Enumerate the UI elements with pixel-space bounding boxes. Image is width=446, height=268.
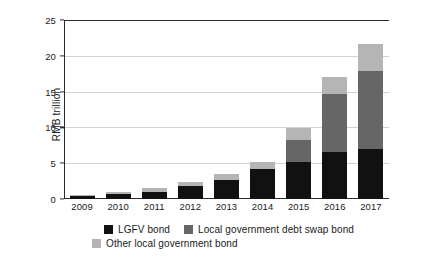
bar-stack-2014[interactable]: [250, 162, 275, 199]
bar-stack-2011[interactable]: [142, 188, 167, 199]
x-tick-label-2009: 2009: [64, 201, 100, 217]
bar-stack-2012[interactable]: [178, 182, 203, 199]
chart-legend: LGFV bond Local government debt swap bon…: [64, 224, 394, 252]
x-tick-label-2010: 2010: [100, 201, 136, 217]
legend-label-other: Other local government bond: [106, 238, 238, 249]
legend-item-other-bond: Other local government bond: [92, 238, 238, 249]
bar-segment-2015-series-2[interactable]: [286, 128, 311, 139]
legend-row-2: Other local government bond: [64, 238, 394, 249]
bar-segment-2017-series-1[interactable]: [358, 71, 383, 149]
x-tick-label-2015: 2015: [281, 201, 317, 217]
bar-segment-2011-series-0[interactable]: [142, 192, 167, 199]
legend-swatch-icon-lgfv: [104, 225, 113, 234]
x-tick-label-2012: 2012: [172, 201, 208, 217]
legend-item-debt-swap-bond: Local government debt swap bond: [184, 224, 354, 235]
bar-stack-2015[interactable]: [286, 128, 311, 199]
bar-segment-2016-series-2[interactable]: [322, 77, 347, 95]
bar-segment-2016-series-0[interactable]: [322, 152, 347, 199]
bar-group-2012[interactable]: [172, 20, 208, 199]
bar-segment-2012-series-0[interactable]: [178, 186, 203, 199]
legend-item-lgfv-bond: LGFV bond: [104, 224, 170, 235]
chart-figure: RMB trillion 0510152025 2009201020112012…: [0, 0, 446, 268]
x-tick-label-2017: 2017: [353, 201, 389, 217]
x-tick-label-2016: 2016: [317, 201, 353, 217]
legend-swatch-icon-other: [92, 239, 101, 248]
bar-group-2016[interactable]: [317, 20, 353, 199]
x-tick-label-2013: 2013: [208, 201, 244, 217]
bar-group-2009[interactable]: [64, 20, 100, 199]
bar-segment-2017-series-2[interactable]: [358, 44, 383, 72]
bar-stack-2016[interactable]: [322, 77, 347, 199]
bar-segment-2017-series-0[interactable]: [358, 149, 383, 199]
y-tick-label-10: 10: [45, 122, 56, 133]
y-tick-label-5: 5: [51, 158, 56, 169]
y-tick-label-0: 0: [51, 194, 56, 205]
y-axis-ticks: 0510152025: [0, 20, 64, 199]
bar-stack-2010[interactable]: [106, 192, 131, 199]
bar-group-2010[interactable]: [100, 20, 136, 199]
bar-segment-2009-series-0[interactable]: [70, 196, 95, 199]
bar-segment-2010-series-0[interactable]: [106, 194, 131, 199]
y-tick-label-25: 25: [45, 15, 56, 26]
bar-stack-2009[interactable]: [70, 195, 95, 199]
bar-segment-2014-series-0[interactable]: [250, 169, 275, 199]
bar-group-2013[interactable]: [208, 20, 244, 199]
y-tick-label-20: 20: [45, 50, 56, 61]
x-axis-labels: 200920102011201220132014201520162017: [64, 201, 389, 217]
bar-segment-2016-series-1[interactable]: [322, 94, 347, 152]
bar-segment-2015-series-1[interactable]: [286, 140, 311, 163]
legend-swatch-icon-swap: [184, 225, 193, 234]
x-tick-label-2014: 2014: [245, 201, 281, 217]
bar-segment-2014-series-2[interactable]: [250, 162, 275, 170]
bar-stack-2013[interactable]: [214, 174, 239, 199]
bar-group-2015[interactable]: [281, 20, 317, 199]
y-tick-label-15: 15: [45, 86, 56, 97]
bar-segment-2015-series-0[interactable]: [286, 162, 311, 199]
legend-label-swap: Local government debt swap bond: [198, 224, 354, 235]
bar-group-2017[interactable]: [353, 20, 389, 199]
bar-segment-2013-series-0[interactable]: [214, 180, 239, 199]
legend-row-1: LGFV bond Local government debt swap bon…: [64, 224, 394, 235]
bar-series-container: [64, 20, 389, 199]
bar-group-2014[interactable]: [245, 20, 281, 199]
x-tick-label-2011: 2011: [136, 201, 172, 217]
bar-stack-2017[interactable]: [358, 44, 383, 199]
bar-group-2011[interactable]: [136, 20, 172, 199]
legend-label-lgfv: LGFV bond: [118, 224, 170, 235]
